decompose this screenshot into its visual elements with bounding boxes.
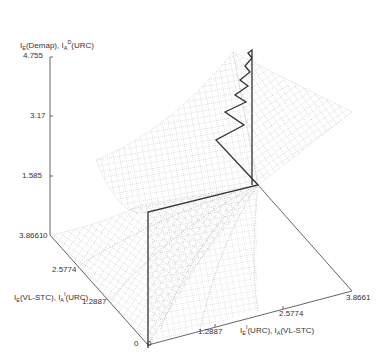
x-tick-38661: 3.8661 xyxy=(346,294,370,302)
z-tick-0: 0 xyxy=(43,232,47,240)
z-tick-1585: 1.585 xyxy=(22,172,42,180)
y-axis-label: IE(VL-STC), IAI(URC) xyxy=(14,292,88,304)
z-tick-4755: 4.755 xyxy=(23,52,43,60)
x-tick-12887: 1.2887 xyxy=(198,328,222,336)
y-tick-38661: 3.8661 xyxy=(19,232,43,240)
y-tick-12887: 1.2887 xyxy=(82,298,106,306)
y-tick-25774: 2.5774 xyxy=(52,266,76,274)
y-tick-0: 0 xyxy=(134,340,138,348)
x-tick-0: 0 xyxy=(147,340,151,348)
x-axis-label: IEI(URC), IA(VL-STC) xyxy=(240,325,314,337)
z-tick-317: 3.17 xyxy=(30,112,46,120)
x-tick-25774: 2.5774 xyxy=(279,310,303,318)
z-axis-label: IE(Demap), IAD(URC) xyxy=(20,40,94,52)
